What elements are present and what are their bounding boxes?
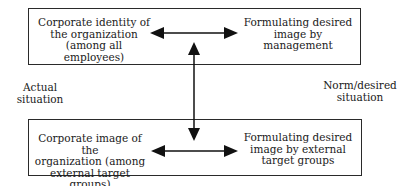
bottom-double-arrow-icon xyxy=(151,145,238,157)
connector-arrows xyxy=(0,0,405,186)
top-double-arrow-icon xyxy=(150,27,238,39)
vertical-double-arrow-icon xyxy=(188,42,200,141)
